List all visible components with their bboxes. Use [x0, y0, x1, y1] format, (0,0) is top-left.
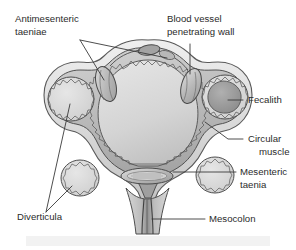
anatomy-illustration: Antimesenteric taeniae Blood vessel pene…	[0, 0, 296, 250]
label-mesocolon: Mesocolon	[209, 213, 256, 224]
label-blood-vessel-line1: Blood vessel	[167, 13, 222, 24]
diverticulum-lower-right	[196, 157, 234, 193]
diverticulum-lower-left	[61, 160, 99, 196]
label-mesocolon-line1: Mesocolon	[209, 213, 256, 224]
leader-diverticula-b	[46, 186, 72, 212]
label-circular-muscle: Circular muscle	[248, 133, 290, 157]
label-circular-muscle-line2: muscle	[259, 146, 290, 157]
label-fecalith-line1: Fecalith	[248, 94, 282, 105]
label-circular-muscle-line1: Circular	[248, 133, 282, 144]
label-diverticula: Diverticula	[17, 211, 63, 222]
diverticulum-left	[48, 77, 94, 121]
diverticulum-right	[202, 75, 248, 119]
label-mesenteric-taenia-line2: taenia	[240, 179, 267, 190]
label-diverticula-line1: Diverticula	[17, 211, 63, 222]
label-antimesenteric-taeniae-line1: Antimesenteric	[15, 13, 79, 24]
label-blood-vessel-line2: penetrating wall	[167, 26, 235, 37]
label-antimesenteric-taeniae: Antimesenteric taeniae	[15, 13, 79, 37]
bottom-band	[26, 236, 270, 246]
diverticulosis-figure: Antimesenteric taeniae Blood vessel pene…	[0, 0, 296, 250]
fecalith-mass	[208, 81, 241, 113]
label-mesenteric-taenia: Mesenteric taenia	[240, 166, 287, 190]
label-blood-vessel-penetrating-wall: Blood vessel penetrating wall	[167, 13, 235, 37]
label-antimesenteric-taeniae-line2: taeniae	[15, 26, 47, 37]
label-mesenteric-taenia-line1: Mesenteric	[240, 166, 287, 177]
label-fecalith: Fecalith	[248, 94, 282, 105]
mesenteric-taenia-ellipse	[121, 168, 173, 184]
